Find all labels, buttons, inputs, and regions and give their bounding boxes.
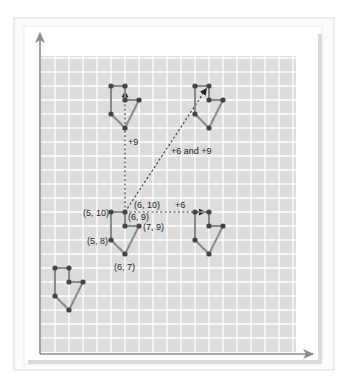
vertex-dot	[122, 125, 127, 130]
vertex-dot	[108, 111, 113, 116]
coordinate-label: (5, 10)	[83, 208, 109, 218]
vertex-dot	[192, 237, 197, 242]
vertex-dot	[206, 209, 211, 214]
coordinate-label: (6, 7)	[114, 262, 135, 272]
vertex-dot	[122, 97, 127, 102]
translation-diagram: +9+6 and +9+6(5, 10)(6, 10)(6, 9)(7, 9)(…	[0, 0, 345, 388]
vertex-dot	[122, 209, 127, 214]
arrow-right-6-label: +6	[175, 200, 185, 210]
diagram-canvas: +9+6 and +9+6(5, 10)(6, 10)(6, 9)(7, 9)(…	[0, 0, 345, 388]
vertex-dot	[192, 83, 197, 88]
coordinate-grid	[41, 56, 296, 352]
vertex-dot	[136, 223, 141, 228]
vertex-dot	[52, 293, 57, 298]
vertex-dot	[220, 223, 225, 228]
vertex-dot	[206, 251, 211, 256]
coordinate-label: (6, 9)	[128, 212, 149, 222]
coordinate-label: (5, 8)	[87, 236, 108, 246]
panel-bottom-edge	[28, 360, 322, 364]
vertex-dot	[52, 265, 57, 270]
vertex-dot	[66, 307, 71, 312]
coordinate-label: (7, 9)	[143, 222, 164, 232]
vertex-dot	[66, 279, 71, 284]
vertex-dot	[206, 97, 211, 102]
vertex-dot	[108, 83, 113, 88]
arrow-up-9-label: +9	[128, 137, 138, 147]
vertex-dot	[192, 111, 197, 116]
coordinate-label: (6, 10)	[134, 200, 160, 210]
vertex-dot	[108, 237, 113, 242]
vertex-dot	[122, 83, 127, 88]
vertex-dot	[122, 251, 127, 256]
arrow-diagonal-label: +6 and +9	[171, 146, 212, 156]
vertex-dot	[206, 223, 211, 228]
vertex-dot	[206, 83, 211, 88]
vertex-dot	[136, 97, 141, 102]
vertex-dot	[206, 125, 211, 130]
panel-right-edge	[318, 34, 322, 364]
vertex-dot	[80, 279, 85, 284]
vertex-dot	[122, 223, 127, 228]
vertex-dot	[108, 209, 113, 214]
vertex-dot	[192, 209, 197, 214]
vertex-dot	[220, 97, 225, 102]
vertex-dot	[66, 265, 71, 270]
